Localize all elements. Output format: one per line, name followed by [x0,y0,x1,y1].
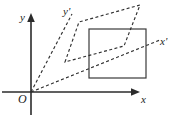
geometry-figure: O x y x' y' [0,0,183,119]
solid-rectangle [89,29,146,78]
y-prime-axis-label: y' [63,6,70,17]
y-axis-arrowhead [27,13,35,22]
x-prime-axis-label: x' [160,36,167,47]
figure-canvas [0,0,183,119]
y-prime-ray [31,14,72,92]
dashed-parallelogram [65,5,140,62]
x-prime-ray [31,40,160,92]
y-axis-label: y [20,12,25,23]
x-axis-label: x [141,94,146,105]
origin-label: O [18,93,27,105]
x-axis-arrowhead [131,88,140,96]
